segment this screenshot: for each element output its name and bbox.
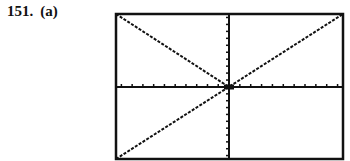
graphing-calculator-plot <box>0 0 350 161</box>
